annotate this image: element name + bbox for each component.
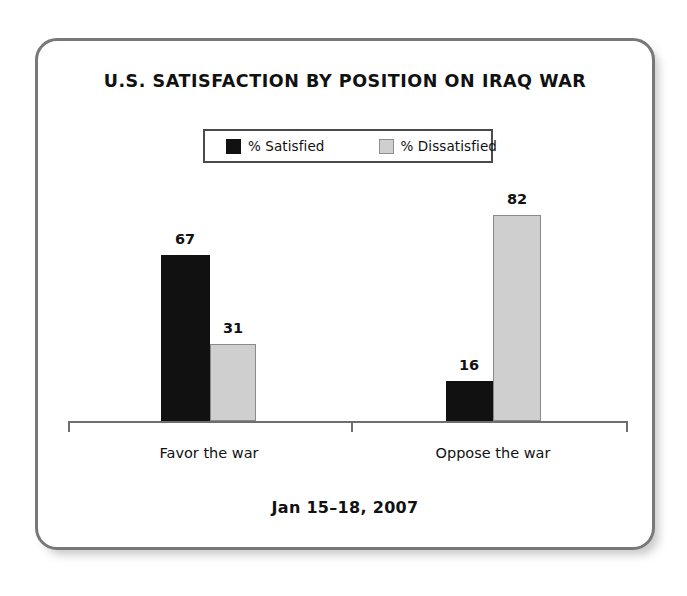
bar-value-oppose-satisfied: 16	[439, 357, 499, 373]
chart-footer-date: Jan 15–18, 2007	[38, 498, 652, 517]
category-label-favor-the-war: Favor the war	[109, 445, 309, 461]
axis-tick-group-separator	[351, 421, 353, 432]
axis-tick-left	[68, 421, 70, 432]
bar-favor-satisfied[interactable]	[161, 255, 210, 421]
plot-area: 67 31 16 82 Favor the war Oppose the war	[38, 41, 652, 547]
bar-value-favor-dissatisfied: 31	[203, 320, 263, 336]
axis-tick-right	[626, 421, 628, 432]
x-axis-baseline	[68, 421, 628, 423]
bar-value-oppose-dissatisfied: 82	[487, 191, 547, 207]
bar-favor-dissatisfied[interactable]	[210, 344, 256, 421]
chart-card: U.S. SATISFACTION BY POSITION ON IRAQ WA…	[35, 38, 655, 550]
category-label-oppose-the-war: Oppose the war	[393, 445, 593, 461]
bar-value-favor-satisfied: 67	[155, 231, 215, 247]
bar-oppose-dissatisfied[interactable]	[493, 215, 541, 421]
bar-oppose-satisfied[interactable]	[446, 381, 493, 421]
